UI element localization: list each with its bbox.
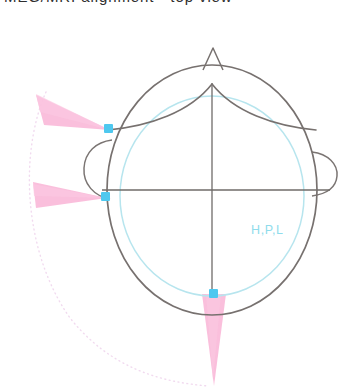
hpi-coil-markers [101, 124, 218, 298]
hpi-coil-3-marker[interactable] [209, 289, 218, 298]
hpi-label: H,P,L [251, 223, 284, 237]
head-alignment-figure: H,P,L MEG/MRI alignment - top view [0, 0, 360, 388]
hpi-coil-2-marker[interactable] [101, 192, 110, 201]
digitization-arc [29, 92, 208, 386]
head-diagram-canvas: H,P,L [0, 0, 360, 388]
hpi-coil-1-marker[interactable] [104, 124, 113, 133]
nose-marker [203, 48, 223, 70]
